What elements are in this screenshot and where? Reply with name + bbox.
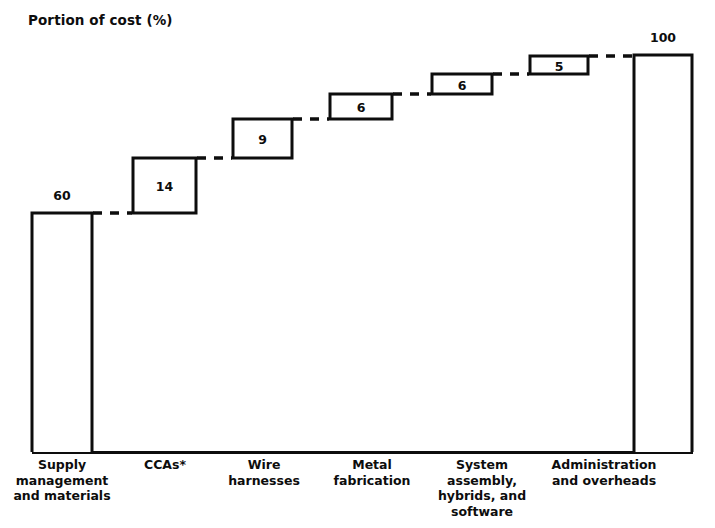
value-label-ccas: 14 <box>156 179 173 194</box>
category-label-metal-fabrication: Metal fabrication <box>334 457 411 488</box>
category-label-administration-and-overheads: Administration and overheads <box>552 457 657 488</box>
category-label-ccas: CCAs* <box>144 457 186 473</box>
value-label-metal-fabrication: 6 <box>357 100 366 115</box>
waterfall-chart: Portion of cost (%) 60 100 <box>0 0 715 528</box>
value-label-wire-harnesses: 9 <box>258 132 267 147</box>
category-label-wire-harnesses: Wire harnesses <box>228 457 300 488</box>
category-label-system-assembly-hybrids-and-software: System assembly, hybrids, and software <box>438 457 526 519</box>
category-label-supply-management-and-materials: Supply management and materials <box>13 457 110 504</box>
value-label-total-end: 100 <box>650 30 676 45</box>
value-label-administration: 5 <box>555 58 564 73</box>
bar-supply-management-and-materials <box>32 213 92 452</box>
bar-total <box>634 55 692 452</box>
value-label-total-start: 60 <box>53 188 70 203</box>
value-label-system-assembly: 6 <box>458 77 467 92</box>
chart-canvas <box>0 0 715 528</box>
